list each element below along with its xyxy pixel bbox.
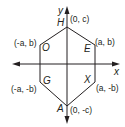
hexagon-coordinate-diagram: x y H (0, c) E (a, b) X (a, -b) A (0, -c… [0, 0, 125, 127]
vertex-h-coords: (0, c) [70, 14, 90, 24]
vertex-a-coords: (0, -c) [70, 105, 92, 115]
vertex-g: G (-a, -b) [11, 75, 51, 94]
vertex-h-name: H [57, 17, 65, 28]
vertex-h: H (0, c) [57, 14, 90, 28]
vertex-e-coords: (a, b) [95, 37, 115, 47]
y-axis-label: y [57, 5, 64, 16]
vertex-o-name: O [42, 42, 50, 53]
vertex-a-name: A [56, 103, 64, 114]
x-axis-label: x [113, 66, 120, 77]
vertex-a: A (0, -c) [56, 103, 92, 115]
vertex-x-name: X [83, 74, 91, 85]
vertex-e-name: E [84, 43, 91, 54]
vertex-x-coords: (a, -b) [96, 83, 119, 93]
x-axis-left-arrow-icon [12, 62, 20, 67]
y-axis-down-arrow-icon [65, 116, 70, 124]
vertex-g-coords: (-a, -b) [11, 84, 37, 94]
vertex-o-coords: (-a, b) [14, 38, 37, 48]
vertex-e: E (a, b) [84, 37, 115, 54]
vertex-o: O (-a, b) [14, 38, 50, 53]
y-axis-up-arrow-icon [65, 6, 70, 14]
vertex-g-name: G [43, 75, 51, 86]
x-axis: x [12, 62, 120, 78]
